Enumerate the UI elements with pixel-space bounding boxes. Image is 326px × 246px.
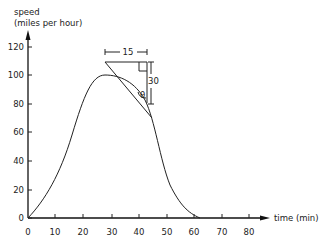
y-tick-40: 40 [13,156,24,166]
x-tick-40: 40 [134,227,145,237]
y-tick-60: 60 [13,127,24,137]
speed-curve [28,75,200,218]
tangent-triangle: θ 15 30 [105,47,159,118]
x-tick-0: 0 [25,227,30,237]
y-axis-arrow-icon [26,30,31,40]
theta-label: θ [140,90,145,100]
x-tick-60: 60 [189,227,200,237]
x-tick-80: 80 [244,227,255,237]
x-tick-30: 30 [107,227,118,237]
y-tick-100: 100 [8,70,24,80]
y-tick-120: 120 [8,42,24,52]
y-tick-20: 20 [13,185,24,195]
x-axis-label: time (min) [274,213,319,223]
x-tick-20: 20 [78,227,89,237]
y-tick-0: 0 [19,213,24,223]
y-axis-label-line2: (miles per hour) [14,18,82,28]
right-angle-marker [139,62,147,71]
x-tick-50: 50 [162,227,173,237]
run-label: 15 [123,47,134,57]
x-tick-70: 70 [217,227,228,237]
y-axis-label-line1: speed [14,7,40,17]
y-tick-80: 80 [13,99,24,109]
speed-time-chart: speed (miles per hour) time (min) 0 20 4… [0,0,326,246]
x-tick-10: 10 [50,227,61,237]
x-axis-arrow-icon [260,216,270,221]
rise-label: 30 [148,76,159,86]
